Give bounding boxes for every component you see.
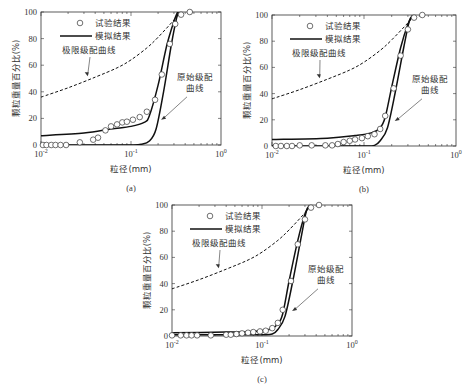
test-data-point	[365, 133, 371, 139]
test-data-point	[108, 124, 114, 130]
annotation-arrow	[163, 97, 187, 119]
test-data-point	[359, 135, 365, 141]
x-tick-label: 10-2	[34, 148, 48, 159]
x-axis-label: 粒径(mm)	[110, 164, 151, 174]
y-tick-label: 40	[260, 89, 269, 99]
chart-caption: (b)	[359, 184, 369, 194]
test-data-point	[245, 330, 251, 336]
x-tick-label: 10-1	[255, 339, 269, 350]
y-tick-label: 80	[160, 226, 169, 236]
chart-caption: (a)	[126, 183, 136, 193]
x-axis-label: 粒径(mm)	[343, 165, 384, 175]
test-data-point	[377, 126, 383, 132]
test-data-point	[228, 332, 234, 338]
legend-test-label: 试验结果	[325, 21, 361, 31]
test-data-point	[316, 202, 322, 208]
y-tick-label: 60	[260, 62, 269, 72]
limit-curve-annotation: 极限级配曲线	[292, 48, 346, 58]
y-tick-label: 100	[155, 200, 168, 210]
test-data-point	[297, 143, 303, 149]
legend-marker-icon	[77, 20, 83, 26]
y-tick-label: 100	[255, 10, 268, 20]
x-tick-label: 10-1	[124, 148, 138, 159]
limit-curve-annotation: 极限级配曲线	[62, 45, 116, 55]
test-data-point	[352, 137, 358, 143]
test-data-point	[178, 12, 184, 18]
y-axis-label: 颗粒重量百分比(%)	[11, 40, 21, 118]
test-data-point	[124, 119, 130, 125]
legend-test-label: 试验结果	[95, 18, 131, 28]
annotation-arrow	[294, 289, 318, 310]
test-data-point	[419, 12, 425, 18]
legend-marker-icon	[207, 213, 213, 219]
test-data-point	[288, 278, 294, 284]
y-tick-label: 100	[24, 7, 37, 17]
test-data-point	[63, 142, 69, 148]
test-data-point	[347, 138, 353, 144]
test-data-point	[208, 333, 214, 339]
test-data-point	[309, 143, 315, 149]
test-data-point	[269, 325, 275, 331]
test-data-point	[178, 333, 184, 339]
test-data-point	[405, 27, 411, 33]
test-data-point	[189, 333, 195, 339]
test-data-point	[194, 333, 200, 339]
test-data-point	[302, 217, 308, 223]
test-data-point	[391, 86, 397, 92]
original-curve-annotation-line2: 曲线	[421, 85, 439, 95]
test-data-point	[144, 109, 150, 115]
test-data-point	[239, 331, 245, 337]
test-data-point	[278, 143, 284, 149]
test-data-point	[169, 333, 175, 339]
test-data-point	[382, 113, 388, 119]
chart-b: 02040608010010-210-1100粒径(mm)颗粒重量百分比(%)(…	[242, 10, 462, 194]
test-data-point	[323, 143, 329, 149]
original-curve-annotation-line1: 原始级配	[177, 72, 213, 82]
test-data-point	[411, 15, 417, 21]
x-tick-label: 10-1	[357, 149, 371, 160]
test-data-point	[289, 143, 295, 149]
test-data-point	[329, 143, 335, 149]
legend-marker-icon	[307, 23, 313, 29]
y-tick-label: 20	[29, 113, 38, 123]
test-data-point	[187, 9, 193, 15]
test-data-point	[114, 122, 120, 128]
test-data-point	[95, 135, 101, 141]
original-curve-annotation-line2: 曲线	[186, 83, 204, 93]
test-data-point	[250, 329, 256, 335]
original-curve-annotation-line1: 原始级配	[412, 74, 448, 84]
test-data-point	[280, 307, 286, 313]
x-tick-label: 10-2	[265, 149, 279, 160]
test-data-point	[103, 128, 109, 134]
x-tick-label: 100	[215, 148, 227, 159]
y-tick-label: 40	[29, 87, 38, 97]
test-data-point	[77, 140, 83, 146]
original-curve-annotation-line2: 曲线	[317, 275, 335, 285]
x-tick-label: 100	[346, 339, 358, 350]
test-data-point	[398, 53, 404, 59]
y-axis-label: 颗粒重量百分比(%)	[142, 232, 152, 310]
legend-sim-label: 模拟结果	[95, 31, 131, 41]
test-data-point	[137, 114, 143, 120]
test-data-point	[335, 141, 341, 147]
x-axis-label: 粒径(mm)	[241, 355, 282, 365]
test-data-point	[159, 72, 165, 78]
test-data-point	[172, 21, 178, 27]
test-data-point	[308, 205, 314, 211]
chart-caption: (c)	[257, 374, 267, 384]
y-tick-label: 60	[29, 60, 38, 70]
y-tick-label: 80	[260, 36, 269, 46]
test-data-point	[130, 117, 136, 123]
y-tick-label: 20	[260, 115, 269, 125]
legend-test-label: 试验结果	[225, 211, 261, 221]
y-tick-label: 40	[160, 279, 169, 289]
figure-canvas: 02040608010010-210-1100粒径(mm)颗粒重量百分比(%)(…	[0, 0, 470, 389]
original-curve-annotation-line1: 原始级配	[308, 264, 344, 274]
limit-curve-annotation: 极限级配曲线	[192, 238, 246, 248]
y-axis-label: 颗粒重量百分比(%)	[242, 42, 252, 120]
test-data-point	[275, 320, 281, 326]
annotation-arrow	[397, 99, 422, 120]
legend-sim-label: 模拟结果	[325, 34, 361, 44]
test-data-point	[167, 41, 173, 47]
y-tick-label: 20	[160, 305, 169, 315]
